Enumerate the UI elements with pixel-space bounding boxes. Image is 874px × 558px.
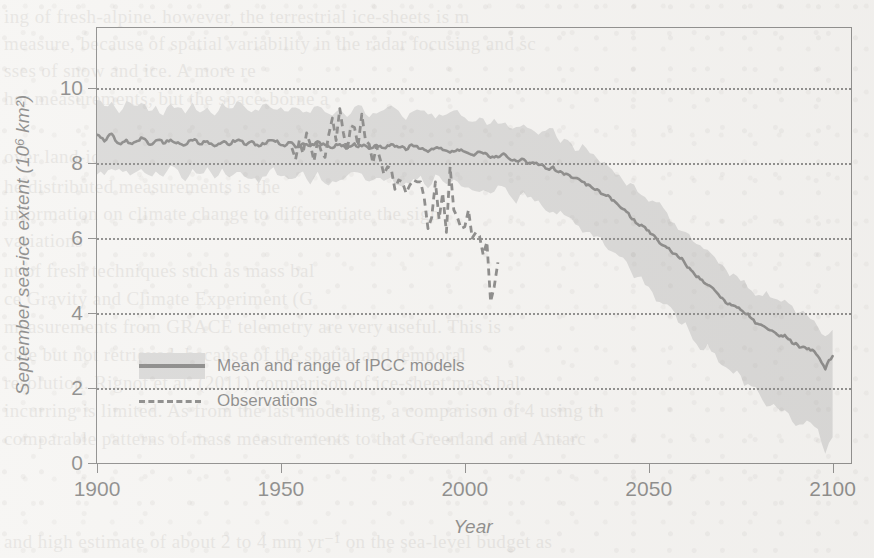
y-axis-tick — [88, 388, 97, 389]
y-axis-tick-label: 4 — [71, 301, 83, 325]
x-axis-tick — [649, 463, 650, 473]
y-axis-tick-label: 0 — [71, 451, 83, 475]
x-axis-tick-label: 1900 — [74, 477, 121, 501]
page-background-text-line: ing of fresh-alpine. however, the terres… — [4, 6, 470, 28]
y-axis-tick — [88, 463, 97, 464]
y-axis-tick — [88, 88, 97, 89]
legend-label-models: Mean and range of IPCC models — [217, 356, 465, 376]
gridline — [97, 88, 851, 90]
y-axis-title: September sea-ice extent (10⁶ km²) — [10, 27, 36, 462]
x-axis-tick — [281, 463, 282, 473]
y-axis-tick-label: 8 — [71, 151, 83, 175]
y-axis-tick — [88, 163, 97, 164]
x-axis-tick-label: 2100 — [809, 477, 856, 501]
legend-label-observations: Observations — [217, 391, 317, 411]
x-axis-tick-label: 2050 — [625, 477, 672, 501]
x-axis-tick-label: 2000 — [441, 477, 488, 501]
gridline — [97, 163, 851, 165]
y-axis-tick-label: 6 — [71, 226, 83, 250]
y-axis-tick-label: 10 — [60, 76, 83, 100]
x-axis-tick — [833, 463, 834, 473]
y-axis-tick — [88, 238, 97, 239]
x-axis-tick — [465, 463, 466, 473]
legend-swatch-dashed-icon — [139, 388, 205, 414]
x-axis-tick-label: 1950 — [258, 477, 305, 501]
y-axis-tick — [88, 313, 97, 314]
legend-item-models: Mean and range of IPCC models — [139, 353, 465, 379]
legend-swatch-band-icon — [139, 353, 205, 379]
gridline — [97, 313, 851, 315]
chart-legend: Mean and range of IPCC models Observatio… — [139, 353, 465, 423]
gridline — [97, 238, 851, 240]
chart-plot-area: 0246810 19001950200020502100 Mean and ra… — [96, 27, 852, 464]
y-axis-title-text: September sea-ice extent (10⁶ km²) — [12, 94, 34, 394]
y-axis-tick-label: 2 — [71, 376, 83, 400]
x-axis-tick — [97, 463, 98, 473]
legend-item-observations: Observations — [139, 388, 465, 414]
x-axis-title: Year — [96, 516, 850, 538]
